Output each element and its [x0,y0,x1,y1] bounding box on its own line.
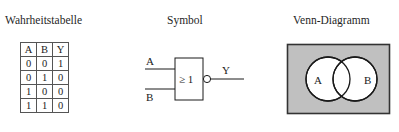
cell-b: 0 [37,85,53,99]
truth-table: A B Y 0 0 1 0 1 0 1 0 0 1 1 [20,42,69,113]
cell-a: 1 [21,85,37,99]
column-header-b: B [37,43,53,57]
input-label-a: A [146,55,154,67]
cell-b: 0 [37,57,53,71]
column-header-y: Y [53,43,69,57]
cell-y: 0 [53,85,69,99]
cell-a: 0 [21,71,37,85]
cell-y: 0 [53,99,69,113]
table-row: 0 1 0 [21,71,69,85]
table-row: 1 0 0 [21,85,69,99]
truth-table-title: Wahrheitstabelle [5,13,82,27]
venn-title: Venn-Diagramm [293,13,370,27]
cell-a: 1 [21,99,37,113]
negation-bubble-icon [203,75,210,82]
circle-a-label: A [314,74,322,86]
table-row: 1 1 0 [21,99,69,113]
input-label-b: B [146,91,153,103]
cell-a: 0 [21,57,37,71]
circle-b-label: B [364,74,371,86]
table-row: 0 0 1 [21,57,69,71]
column-header-a: A [21,43,37,57]
cell-y: 1 [53,57,69,71]
venn-diagram: A B [286,43,394,117]
logic-gate-symbol: ≥ 1 A B Y [140,40,260,120]
cell-y: 0 [53,71,69,85]
table-header-row: A B Y [21,43,69,57]
cell-b: 1 [37,99,53,113]
output-label-y: Y [222,64,230,76]
cell-b: 1 [37,71,53,85]
gate-operator-label: ≥ 1 [179,73,193,85]
symbol-title: Symbol [167,13,203,27]
logic-gate-reference-figure: Wahrheitstabelle A B Y 0 0 1 0 1 0 1 0 [0,0,399,132]
